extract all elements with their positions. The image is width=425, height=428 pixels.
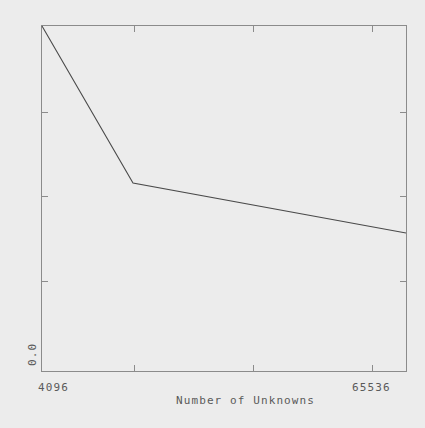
data-series-line [42,26,406,371]
y-axis-tick-label-zero: 0.0 [26,343,39,366]
x-axis-tick-label-max: 65536 [352,381,391,394]
x-axis-tick-label-min: 4096 [38,381,69,394]
x-axis-title: Number of Unknowns [176,394,315,407]
plot-area-frame [41,25,407,372]
chart-figure: Scaled Time 0.0 4096 65536 Number of Unk… [0,0,425,428]
